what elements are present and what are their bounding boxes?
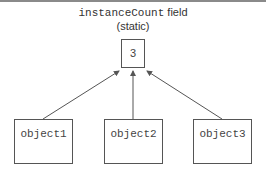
arrow-object1 [43, 71, 119, 119]
object-label: object3 [194, 128, 251, 140]
static-value-box: 3 [121, 39, 145, 68]
object-label: object2 [105, 128, 162, 140]
static-value: 3 [122, 47, 144, 59]
object-label: object1 [15, 128, 72, 140]
arrow-object3 [147, 71, 222, 119]
object-box-2: object2 [104, 119, 163, 164]
object-box-3: object3 [193, 119, 252, 164]
object-box-1: object1 [14, 119, 73, 164]
